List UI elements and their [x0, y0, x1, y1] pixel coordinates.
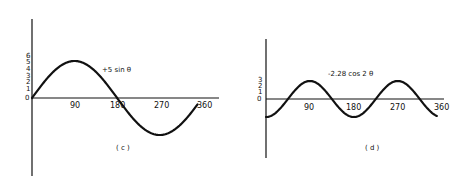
chart-c-xtick: 180 [110, 101, 125, 110]
chart-d-ytick: 0 [257, 95, 261, 103]
chart-c-xtick: 270 [154, 101, 169, 110]
chart-c-curve-annotation: +5 sin θ [102, 66, 131, 74]
chart-c-xtick: 90 [70, 101, 80, 110]
chart-d-caption: ( d ) [365, 144, 380, 152]
chart-c-ytick: 0 [25, 94, 29, 102]
figure: 6 5 4 3 2 1 0 90 180 270 360 +5 sin θ ( … [0, 0, 465, 182]
chart-c-caption: ( c ) [116, 144, 130, 152]
chart-d-xtick: 90 [304, 103, 314, 112]
chart-c: 6 5 4 3 2 1 0 90 180 270 360 +5 sin θ ( … [25, 19, 219, 176]
chart-d-xtick: 180 [346, 103, 361, 112]
chart-d: 3 2 1 0 90 180 270 360 -2.28 cos 2 θ ( d… [257, 39, 449, 158]
chart-c-xtick: 360 [197, 101, 212, 110]
chart-d-xtick: 270 [390, 103, 405, 112]
chart-d-curve-annotation: -2.28 cos 2 θ [328, 70, 373, 78]
chart-d-xtick: 360 [434, 103, 449, 112]
chart-c-ytick: 1 [26, 85, 30, 93]
